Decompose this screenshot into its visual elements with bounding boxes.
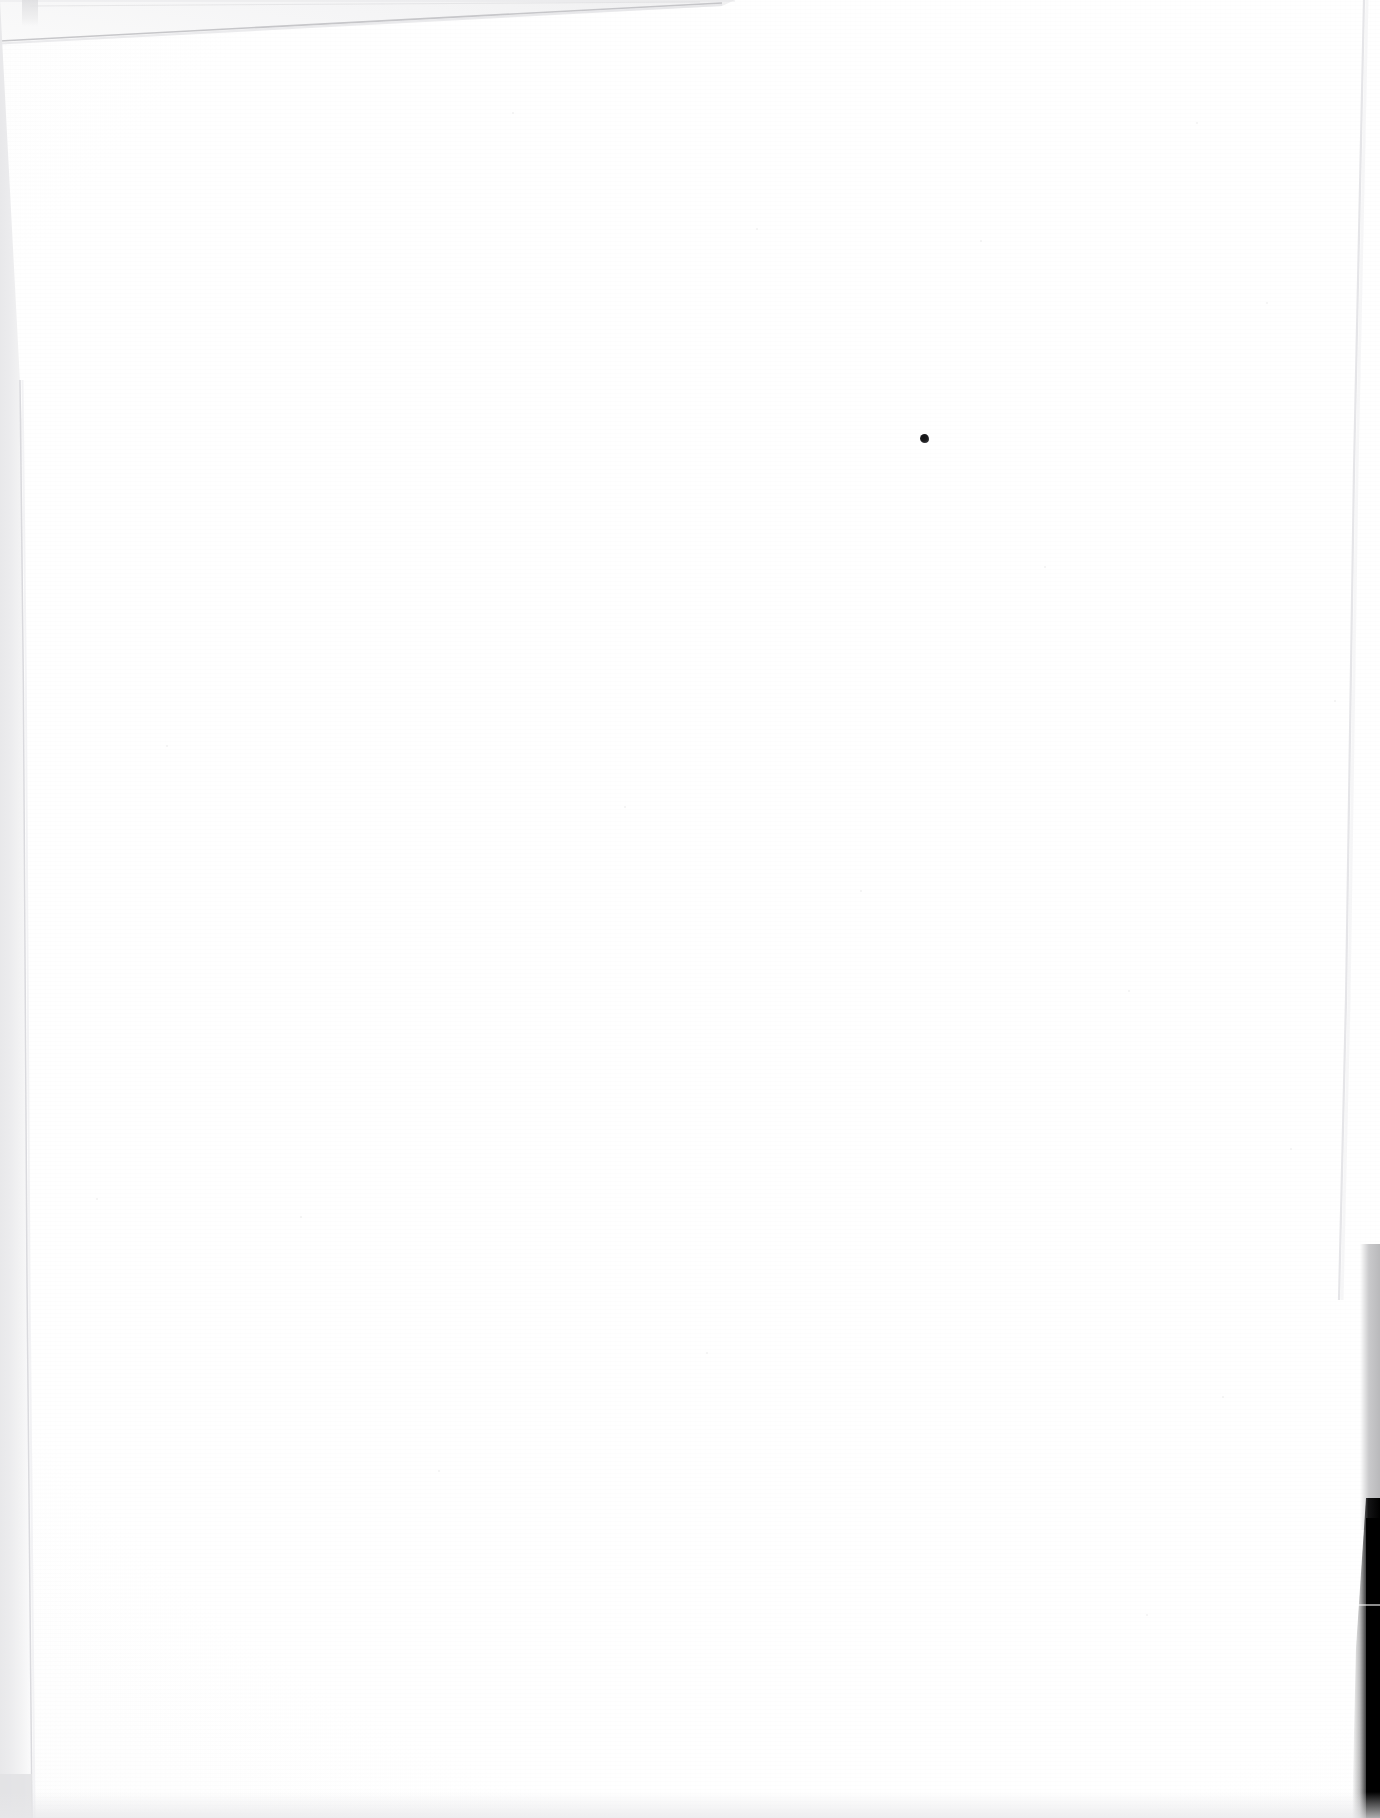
dust-speck [1128, 990, 1130, 992]
right-scanner-void-core [1366, 1518, 1380, 1818]
dust-speck [756, 228, 758, 230]
scanned-page [0, 0, 1380, 1818]
dust-speck [1290, 1148, 1292, 1150]
dust-speck [1044, 566, 1046, 568]
dust-speck [1266, 302, 1268, 304]
dust-speck [1146, 1614, 1148, 1616]
dust-speck [1196, 122, 1198, 124]
top-left-corner-notch [22, 0, 38, 26]
dust-speck [438, 1470, 440, 1472]
dust-speck [300, 1216, 302, 1218]
dust-speck [860, 890, 862, 892]
dust-speck [166, 745, 168, 747]
dust-speck [96, 1198, 98, 1200]
paper-surface [0, 0, 1380, 1818]
bottom-shadow-band [0, 1792, 1380, 1818]
dust-speck [1222, 1396, 1224, 1398]
dust-speck [706, 1352, 708, 1354]
scanner-void-hairline [1354, 1604, 1380, 1606]
dust-speck [1334, 700, 1336, 702]
right-scanner-grey-band [1360, 1244, 1380, 1530]
dust-speck [512, 112, 514, 114]
dust-speck [980, 240, 982, 242]
dust-speck [624, 806, 626, 808]
ink-speck [920, 434, 929, 443]
